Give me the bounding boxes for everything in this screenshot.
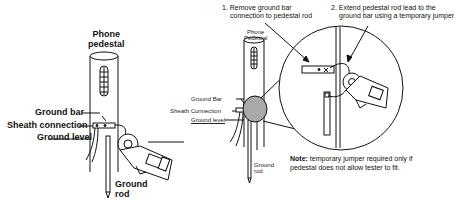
note-line1: temporary jumper required only if bbox=[310, 155, 413, 162]
left-ground-rod bbox=[106, 136, 110, 198]
left-label-sheath-connection: Sheath connection bbox=[7, 121, 88, 130]
step-2-line1: 2. Extend pedestal rod lead to the bbox=[331, 4, 454, 12]
right-title-line2: Pedestal bbox=[244, 35, 267, 41]
left-ground-rod-line1: Ground bbox=[115, 180, 148, 189]
left-clamp-tester bbox=[118, 134, 184, 180]
left-label-ground-bar: Ground bar bbox=[35, 108, 84, 117]
step-1-line1: 1. Remove ground bar bbox=[222, 4, 312, 12]
zoom-circle bbox=[279, 26, 403, 150]
left-title-line1: Phone bbox=[88, 30, 125, 39]
step-2-line2: ground bar using a temporary jumper bbox=[331, 12, 454, 20]
step-1-line2: connection to pedestal rod bbox=[222, 12, 312, 20]
right-label-ground-bar: Ground Bar bbox=[191, 96, 222, 102]
right-pedestal bbox=[244, 37, 264, 147]
right-label-sheath-connection: Sheath Connection bbox=[170, 108, 221, 114]
left-label-ground-level: Ground level bbox=[37, 133, 92, 142]
left-ground-bar bbox=[93, 116, 115, 128]
left-ground-rod-line2: rod bbox=[115, 190, 148, 199]
left-label-ground-rod: Ground rod bbox=[115, 180, 148, 199]
left-title: Phone pedestal bbox=[88, 30, 125, 49]
right-ground-rod-line2: rod bbox=[254, 168, 274, 174]
right-label-ground-level: Ground level bbox=[191, 117, 225, 123]
note-line2: pedestal does not allow tester to fit. bbox=[290, 163, 413, 172]
right-label-ground-rod: Ground rod bbox=[254, 162, 274, 174]
right-title: Phone Pedestal bbox=[244, 29, 267, 41]
step-2-text: 2. Extend pedestal rod lead to the groun… bbox=[331, 4, 454, 20]
left-title-line2: pedestal bbox=[88, 40, 125, 49]
note-text: Note: temporary jumper required only if … bbox=[290, 154, 413, 172]
note-label: Note: bbox=[290, 155, 308, 162]
step-1-text: 1. Remove ground bar connection to pedes… bbox=[222, 4, 312, 20]
